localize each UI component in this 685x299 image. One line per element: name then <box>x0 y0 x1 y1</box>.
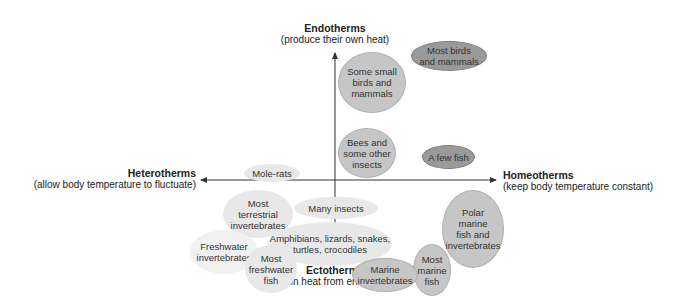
group-many-insects: Many insects <box>294 197 378 219</box>
group-polar-marine: Polar marine fish and invertebrates <box>442 190 504 268</box>
axis-label-endotherms: Endotherms (produce their own heat) <box>275 22 395 46</box>
group-freshwater-fish: Most freshwater fish <box>245 245 297 293</box>
axis-label-homeotherms: Homeotherms (keep body temperature const… <box>503 169 683 193</box>
group-some-small-birds-mammals: Some small birds and mammals <box>338 52 406 113</box>
group-few-fish: A few fish <box>422 145 475 169</box>
axis-label-heterotherms: Heterotherms (allow body temperature to … <box>0 167 196 191</box>
group-most-marine-fish: Most marine fish <box>413 244 451 296</box>
group-bees-insects: Bees and some other insects <box>338 128 396 178</box>
group-marine-invertebrates: Marine invertebrates <box>352 258 418 292</box>
group-most-birds-mammals: Most birds and mammals <box>411 41 487 71</box>
thermoregulation-diagram: Endotherms (produce their own heat) Ecto… <box>0 0 685 299</box>
group-mole-rats: Mole-rats <box>244 164 300 182</box>
